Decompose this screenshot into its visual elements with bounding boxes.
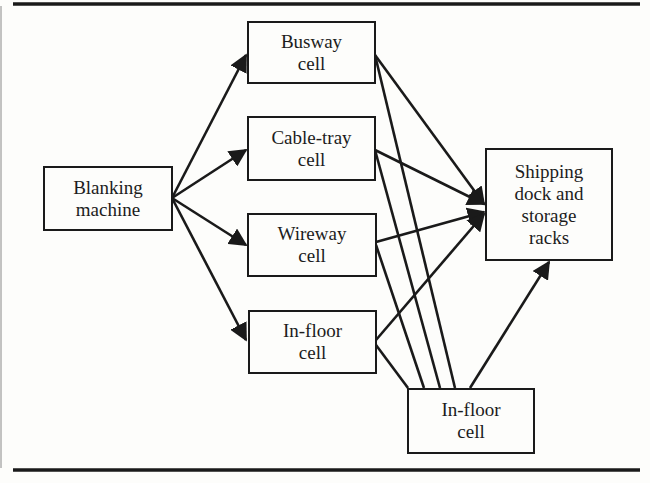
edge-blanking-busway xyxy=(172,55,246,198)
node-label: In-floor xyxy=(283,320,342,342)
edge-blanking-infloor1 xyxy=(172,198,246,340)
node-label: cell xyxy=(441,421,500,443)
node-busway-cell: Buswaycell xyxy=(247,21,376,84)
node-label: Cable-tray xyxy=(271,127,351,149)
edge-busway-shipping xyxy=(375,55,484,204)
node-shipping-dock: Shippingdock andstorageracks xyxy=(485,148,613,261)
edge-infloor2-shipping xyxy=(470,262,549,388)
node-label: cell xyxy=(271,149,351,171)
node-cable-tray-cell: Cable-traycell xyxy=(247,116,376,181)
node-label: cell xyxy=(278,245,347,267)
node-label: In-floor xyxy=(441,399,500,421)
node-label: machine xyxy=(73,199,143,221)
node-label: Wireway xyxy=(278,223,347,245)
node-label: cell xyxy=(281,53,342,75)
node-wireway-cell: Wirewaycell xyxy=(247,213,377,277)
edge-busway-infloor2 xyxy=(375,55,455,388)
node-label: dock and xyxy=(514,183,583,205)
node-blanking-machine: Blankingmachine xyxy=(43,166,173,231)
edge-infloor1-shipping xyxy=(376,214,484,340)
node-label: cell xyxy=(283,342,342,364)
node-label: Busway xyxy=(281,31,342,53)
node-in-floor-cell-1: In-floorcell xyxy=(248,310,377,374)
edge-infloor1-infloor2 xyxy=(376,345,408,388)
node-label: racks xyxy=(514,227,583,249)
node-label: storage xyxy=(514,205,583,227)
node-label: Shipping xyxy=(514,161,583,183)
node-in-floor-cell-2: In-floorcell xyxy=(407,388,535,454)
edge-wireway-infloor2 xyxy=(376,245,424,388)
edge-cabletray-shipping xyxy=(375,150,484,204)
diagram-canvas: Blankingmachine Buswaycell Cable-traycel… xyxy=(0,0,650,483)
node-label: Blanking xyxy=(73,177,143,199)
